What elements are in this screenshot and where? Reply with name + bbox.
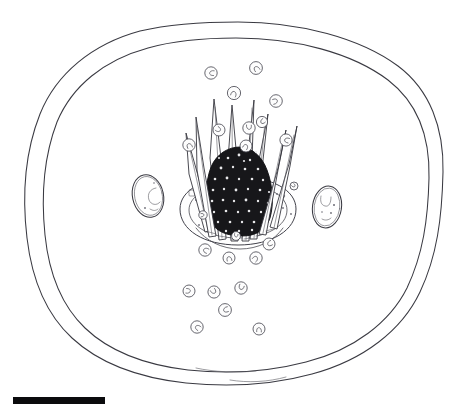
- granule: [183, 285, 195, 297]
- granule: [199, 244, 211, 256]
- granule-body: [205, 67, 217, 79]
- granule-body: [250, 62, 263, 75]
- right-organelle-speck: [333, 204, 335, 206]
- granule: [240, 140, 252, 152]
- disc-speck: [290, 213, 292, 215]
- figure-root: [0, 0, 470, 407]
- granule-body: [208, 286, 220, 298]
- granule-body: [250, 252, 262, 264]
- granule-body: [219, 304, 232, 317]
- granule-body: [183, 285, 195, 297]
- granule-body: [191, 321, 203, 333]
- granule: [205, 67, 217, 79]
- granule-body: [213, 124, 225, 136]
- disc-speck: [198, 224, 200, 226]
- granule-body: [240, 140, 252, 152]
- granule: [208, 286, 220, 298]
- scale-bar: [13, 397, 105, 404]
- granule: [250, 252, 262, 264]
- right-organelle-speck: [321, 211, 323, 213]
- granule: [223, 252, 235, 264]
- granule-body: [243, 122, 255, 134]
- granule: [256, 116, 267, 127]
- granule: [235, 282, 247, 294]
- granule: [280, 134, 292, 146]
- left-organelle-speck: [144, 207, 146, 209]
- granule-body: [270, 95, 283, 108]
- granule: [227, 86, 240, 99]
- granule: [232, 232, 241, 241]
- granule: [219, 304, 232, 317]
- granule-body: [263, 238, 275, 250]
- granule: [191, 321, 203, 333]
- disc-speck: [282, 207, 284, 209]
- granule-body: [253, 323, 265, 335]
- disc-speck: [276, 193, 278, 195]
- granule-body: [235, 282, 247, 294]
- granule-body: [290, 182, 298, 190]
- granule: [270, 95, 283, 108]
- granule: [183, 139, 195, 151]
- granule: [290, 182, 298, 190]
- line-drawing-canvas: [0, 0, 470, 407]
- granule-body: [227, 86, 240, 99]
- granule-body: [280, 134, 292, 146]
- granule: [250, 62, 263, 75]
- granule: [199, 211, 207, 219]
- left-organelle-speck: [153, 182, 155, 184]
- granule-body: [223, 252, 235, 264]
- granule: [213, 124, 225, 136]
- granule-body: [232, 232, 241, 241]
- granule-body: [256, 116, 267, 127]
- granule-body: [183, 139, 195, 151]
- granule: [263, 238, 275, 250]
- granule-body: [199, 244, 211, 256]
- right-organelle-speck: [330, 212, 332, 214]
- granule: [243, 122, 255, 134]
- granule: [253, 323, 265, 335]
- granule-body: [199, 211, 207, 219]
